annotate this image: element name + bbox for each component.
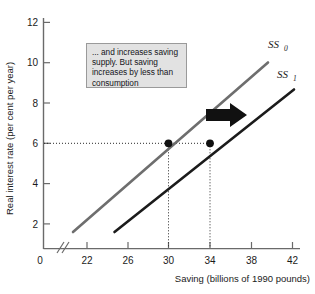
x-tick-label-42: 42: [287, 255, 299, 266]
shift-arrow-icon: [206, 103, 247, 127]
y-tick-label-2: 2: [32, 219, 38, 230]
y-axis-ticks: [44, 22, 51, 224]
y-tick-label-10: 10: [27, 57, 39, 68]
annotation-text-box: ... and increases saving supply. But sav…: [86, 43, 187, 88]
curve-label-ss1: SS 1: [277, 68, 297, 83]
curve-label-ss1-sub: 1: [293, 74, 297, 83]
curve-label-ss0: SS 0: [268, 38, 288, 53]
x-tick-label-38: 38: [246, 255, 258, 266]
curve-label-ss1-base: SS: [277, 68, 289, 80]
equilibrium-marker-ss0: [165, 139, 173, 147]
curve-label-ss0-base: SS: [268, 38, 280, 50]
x-tick-label-22: 22: [81, 255, 93, 266]
y-tick-label-4: 4: [32, 178, 38, 189]
axis-break-icon: [57, 242, 69, 253]
curve-label-ss0-sub: 0: [284, 44, 288, 53]
y-tick-label-8: 8: [32, 98, 38, 109]
y-tick-label-12: 12: [27, 17, 39, 28]
annotation-text: ... and increases saving supply. But sav…: [92, 47, 182, 88]
chart-container: 12 10 8 6 4 2 0 22 26 30 34 38 42 Real i…: [0, 0, 315, 294]
x-tick-label-34: 34: [204, 255, 216, 266]
x-tick-label-30: 30: [163, 255, 175, 266]
y-tick-label-6: 6: [32, 138, 38, 149]
origin-label: 0: [37, 255, 43, 266]
curve-ss1: [115, 90, 295, 233]
x-tick-label-26: 26: [122, 255, 134, 266]
x-axis-title: Saving (billions of 1990 pounds): [175, 273, 310, 284]
equilibrium-marker-ss1: [206, 139, 214, 147]
y-axis-title: Real interest rate (per cent per year): [4, 62, 15, 215]
x-axis-ticks: [87, 242, 293, 249]
